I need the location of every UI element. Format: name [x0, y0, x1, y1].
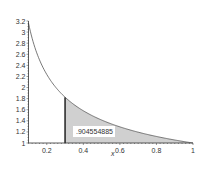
- y-tick-label: 1.6: [16, 106, 26, 113]
- x-tick-label: 1: [191, 147, 195, 154]
- x-tick-label: 0.4: [78, 147, 88, 154]
- x-tick-label: 0.2: [42, 147, 52, 154]
- y-tick-label: 3: [22, 29, 26, 36]
- y-tick-label: 2.8: [16, 40, 26, 47]
- x-tick-label: 0.6: [115, 147, 125, 154]
- y-tick-label: 2.6: [16, 51, 26, 58]
- y-axis: 11.21.41.61.822.22.42.62.833.2: [16, 18, 29, 147]
- y-tick-label: 1: [22, 140, 26, 147]
- y-tick-label: 1.8: [16, 95, 26, 102]
- y-tick-label: 2.4: [16, 62, 26, 69]
- y-tick-label: 1.4: [16, 117, 26, 124]
- x-axis-label: x: [110, 150, 115, 157]
- area-value-label: .904554885: [76, 128, 113, 135]
- x-tick-label: 0.8: [152, 147, 162, 154]
- y-tick-label: 3.2: [16, 18, 26, 25]
- y-tick-label: 1.2: [16, 128, 26, 135]
- area-annotation: .904554885: [73, 126, 115, 137]
- area-under-curve-chart: 11.21.41.61.822.22.42.62.833.2 0.20.40.6…: [0, 0, 201, 169]
- y-tick-label: 2.2: [16, 73, 26, 80]
- y-tick-label: 2: [22, 84, 26, 91]
